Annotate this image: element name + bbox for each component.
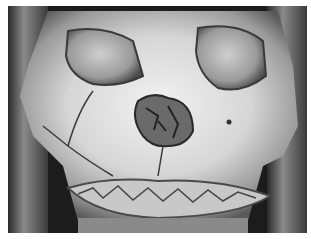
mandible [78, 218, 248, 233]
infraorbital-foramen [227, 120, 232, 125]
ct-skull-image [8, 6, 307, 233]
skull-rendering [8, 6, 307, 233]
